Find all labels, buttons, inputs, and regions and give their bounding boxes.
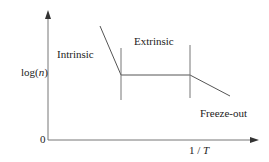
origin-label: 0	[40, 133, 46, 145]
x-axis-arrowhead-icon	[250, 137, 259, 143]
freeze-out-label: Freeze-out	[200, 107, 247, 119]
y-axis-label: log(n)	[21, 66, 48, 79]
diagram-canvas: log(n) 0 Intrinsic Extrinsic Freeze-out …	[0, 0, 269, 162]
y-axis-arrowhead-icon	[45, 10, 51, 19]
carrier-concentration-diagram: log(n) 0 Intrinsic Extrinsic Freeze-out …	[0, 0, 269, 162]
intrinsic-label: Intrinsic	[57, 48, 94, 60]
intrinsic-segment	[100, 26, 121, 75]
extrinsic-label: Extrinsic	[134, 35, 174, 47]
x-axis-label: 1 / T	[189, 144, 210, 156]
freeze-out-segment	[190, 75, 230, 96]
